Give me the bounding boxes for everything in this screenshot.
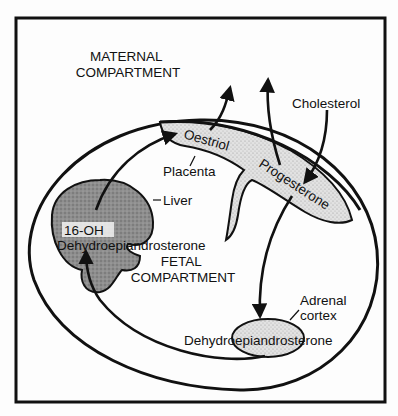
arrow-progesterone-to-adrenal xyxy=(260,196,292,316)
label-placenta: Placenta xyxy=(163,164,216,179)
adrenal-leader xyxy=(290,310,299,320)
label-adrenal-cortex: Adrenal cortex xyxy=(300,293,350,323)
diagram: MATERNAL COMPARTMENT Cholesterol Oestrio… xyxy=(0,0,398,416)
label-fetal-compartment: FETAL COMPARTMENT xyxy=(131,254,236,285)
label-cholesterol: Cholesterol xyxy=(292,96,360,111)
diagram-canvas: MATERNAL COMPARTMENT Cholesterol Oestrio… xyxy=(0,0,398,416)
label-dhea: Dehydroepiandrosterone xyxy=(184,333,333,348)
label-maternal-compartment: MATERNAL COMPARTMENT xyxy=(76,49,181,80)
label-liver: Liver xyxy=(163,193,193,208)
